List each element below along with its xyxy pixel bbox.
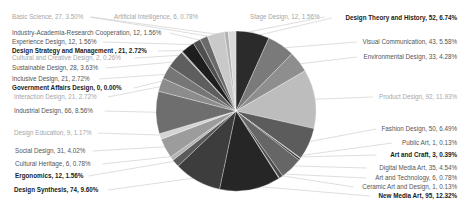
slice-label: Basic Science, 27, 3.50% <box>12 13 84 20</box>
slice-label: Sustainable Design, 28, 3.63% <box>12 64 99 72</box>
slice-label: Artificial Intelligence, 6, 0.78% <box>114 13 198 21</box>
leader-line <box>252 18 332 37</box>
pie-chart: Design Theory and History, 52, 6.74%Visu… <box>0 0 468 209</box>
leader-line <box>103 42 199 45</box>
leader-line <box>99 74 169 79</box>
leader-line <box>250 186 370 196</box>
slice-label: Design Theory and History, 52, 6.74% <box>345 14 457 22</box>
leader-line <box>279 42 357 48</box>
slice-label: New Media Art, 95, 12.32% <box>378 192 457 200</box>
slice-label: Design Synthesis, 74, 9.60% <box>14 186 99 194</box>
slice-label: Art and Craft, 3, 0.39% <box>390 151 457 159</box>
leader-line <box>105 111 160 112</box>
leader-line <box>305 129 376 142</box>
leader-line <box>89 161 179 176</box>
slice-label: Ergonomics, 12, 1.56% <box>15 172 84 180</box>
slice-label: Interaction Design, 21, 2.72% <box>14 93 97 101</box>
slice-label: Art and Technology, 6, 0.78% <box>375 174 457 182</box>
slice-label: Design Strategy and Management , 21, 2.7… <box>12 47 147 55</box>
leader-line <box>289 166 367 168</box>
slice-label: Product Design, 92, 11.93% <box>379 93 457 101</box>
slice-label: Digital Media Art, 35, 4.54% <box>379 164 457 172</box>
slice-label: Visual Communication, 43, 5.58% <box>363 38 458 45</box>
leader-line <box>108 177 199 190</box>
slice-label: Stage Design, 12, 1.56% <box>250 13 320 21</box>
slice-label: Ceramic Art and Design, 1, 0.13% <box>362 183 457 191</box>
slice-label: Cultural Heritage, 6, 0.78% <box>15 160 91 168</box>
leader-line <box>296 57 357 64</box>
pie-slices <box>156 31 316 191</box>
slice-label: Design Education, 9, 1.17% <box>14 129 92 137</box>
slice-label: Industrial Design, 66, 8.56% <box>14 107 93 115</box>
slice-label: Government Affairs Design, 0, 0.00% <box>12 84 122 92</box>
slice-label: Inclusive Design, 21, 2.72% <box>12 75 90 83</box>
leader-line <box>311 97 373 99</box>
leader-line <box>106 62 178 68</box>
slice-label: Industry-Academia-Research Cooperation, … <box>12 29 162 37</box>
leader-line <box>93 147 169 151</box>
leader-line <box>297 155 377 157</box>
slice-label: Environmental Design, 33, 4.28% <box>364 53 458 61</box>
slice-label: Experience Design, 12, 1.56% <box>12 38 97 46</box>
slice-label: Fashion Design, 50, 6.49% <box>381 125 457 133</box>
leader-line <box>297 143 392 156</box>
slice-label: Cultural and Creative Design, 2, 0.26% <box>12 54 121 62</box>
leader-line <box>98 133 164 135</box>
slice-label: Public Art, 1, 0.13% <box>402 139 457 146</box>
slice-label: Social Design, 31, 4.02% <box>15 147 86 155</box>
